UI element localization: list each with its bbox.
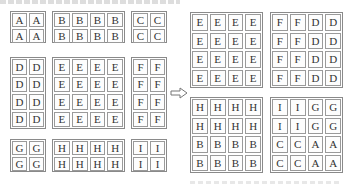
tile-H: H <box>72 157 88 171</box>
right-group-bottom-left: HHHHHHHHBBBBBBBB <box>190 97 263 173</box>
tile-A: A <box>12 29 27 43</box>
cropped-caption-text <box>0 0 180 4</box>
tile-D: D <box>12 59 27 75</box>
tile-D: D <box>308 33 324 50</box>
left-group-H: HHHHHHHH <box>52 139 125 172</box>
tile-F: F <box>290 70 306 87</box>
tile-E: E <box>228 51 244 68</box>
tile-E: E <box>72 94 88 110</box>
tile-E: E <box>210 33 226 50</box>
tile-G: G <box>308 99 324 116</box>
tile-B: B <box>54 13 70 27</box>
tile-E: E <box>90 59 106 75</box>
tile-E: E <box>192 33 208 50</box>
tile-E: E <box>54 77 70 93</box>
tile-E: E <box>107 112 123 128</box>
tile-E: E <box>245 51 261 68</box>
tile-A: A <box>325 136 341 153</box>
tile-D: D <box>12 94 27 110</box>
tile-E: E <box>245 70 261 87</box>
tile-B: B <box>192 155 208 172</box>
tile-H: H <box>245 118 261 135</box>
tile-H: H <box>54 141 70 155</box>
left-group-D: DDDDDDDD <box>10 57 46 129</box>
tile-E: E <box>192 14 208 31</box>
tile-H: H <box>245 99 261 116</box>
tile-B: B <box>192 136 208 153</box>
tile-E: E <box>107 94 123 110</box>
tile-F: F <box>133 59 148 75</box>
right-group-top-left: EEEEEEEEEEEEEEEE <box>190 12 263 88</box>
tile-E: E <box>72 112 88 128</box>
tile-C: C <box>290 155 306 172</box>
tile-E: E <box>245 33 261 50</box>
tile-E: E <box>90 94 106 110</box>
tile-H: H <box>90 141 106 155</box>
tile-H: H <box>192 118 208 135</box>
tile-C: C <box>133 29 148 43</box>
tile-H: H <box>72 141 88 155</box>
tile-B: B <box>245 155 261 172</box>
tile-G: G <box>29 141 44 155</box>
tile-D: D <box>12 77 27 93</box>
tile-H: H <box>107 157 123 171</box>
tile-F: F <box>272 33 288 50</box>
tile-B: B <box>72 13 88 27</box>
left-group-E: EEEEEEEEEEEEEEEE <box>52 57 125 129</box>
tile-E: E <box>228 33 244 50</box>
tile-E: E <box>107 77 123 93</box>
tile-D: D <box>325 51 341 68</box>
tile-A: A <box>29 29 44 43</box>
tile-E: E <box>210 51 226 68</box>
cropped-footer-text <box>190 181 340 184</box>
tile-F: F <box>133 77 148 93</box>
tile-B: B <box>228 136 244 153</box>
tile-D: D <box>29 94 44 110</box>
tile-F: F <box>133 94 148 110</box>
tile-C: C <box>150 13 165 27</box>
tile-F: F <box>133 112 148 128</box>
tile-E: E <box>245 14 261 31</box>
tile-E: E <box>210 14 226 31</box>
tile-I: I <box>150 157 165 171</box>
left-group-I: IIII <box>131 139 167 172</box>
tile-I: I <box>290 118 306 135</box>
tile-C: C <box>150 29 165 43</box>
tile-G: G <box>29 157 44 171</box>
left-group-F: FFFFFFFF <box>131 57 167 129</box>
tile-A: A <box>29 13 44 27</box>
tile-I: I <box>272 99 288 116</box>
tile-F: F <box>290 51 306 68</box>
tile-A: A <box>325 155 341 172</box>
tile-D: D <box>325 33 341 50</box>
tile-G: G <box>325 118 341 135</box>
tile-H: H <box>210 118 226 135</box>
tile-B: B <box>107 29 123 43</box>
tile-D: D <box>29 77 44 93</box>
left-group-G: GGGG <box>10 139 46 172</box>
tile-F: F <box>150 59 165 75</box>
tile-B: B <box>107 13 123 27</box>
tile-H: H <box>107 141 123 155</box>
tile-A: A <box>308 155 324 172</box>
tile-F: F <box>150 94 165 110</box>
tile-G: G <box>325 99 341 116</box>
tile-B: B <box>72 29 88 43</box>
tile-E: E <box>54 59 70 75</box>
tile-E: E <box>192 70 208 87</box>
tile-H: H <box>210 99 226 116</box>
tile-E: E <box>54 94 70 110</box>
tile-D: D <box>308 51 324 68</box>
tile-D: D <box>308 70 324 87</box>
tile-G: G <box>12 157 27 171</box>
tile-E: E <box>228 14 244 31</box>
tile-C: C <box>272 136 288 153</box>
tile-E: E <box>90 112 106 128</box>
tile-I: I <box>133 141 148 155</box>
left-group-B: BBBBBBBB <box>52 11 125 43</box>
tile-F: F <box>272 70 288 87</box>
tile-E: E <box>72 59 88 75</box>
tile-E: E <box>72 77 88 93</box>
tile-D: D <box>12 112 27 128</box>
tile-E: E <box>107 59 123 75</box>
